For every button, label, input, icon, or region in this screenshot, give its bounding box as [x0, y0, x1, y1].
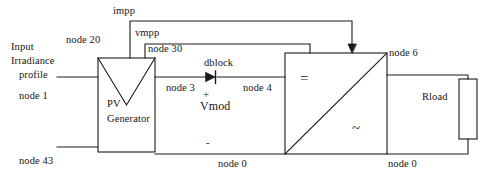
label-dblock: dblock [204, 57, 233, 69]
label-node-4: node 4 [243, 82, 272, 94]
label-inverter-dc-symbol: = [300, 72, 309, 84]
label-minus-sign: - [206, 136, 210, 148]
label-node-43: node 43 [19, 155, 53, 167]
wire-node6-to-load [387, 75, 468, 79]
label-pv-generator-line2: Generator [107, 113, 150, 125]
label-impp: impp [113, 5, 135, 17]
label-node-6: node 6 [389, 47, 418, 59]
label-input-line2: Irradiance [11, 55, 55, 67]
label-vmod: Vmod [200, 100, 230, 112]
diode-dblock-triangle [206, 73, 215, 82]
label-input-line3: profile [19, 69, 48, 81]
wire-node0-to-load [387, 139, 468, 154]
label-node-1: node 1 [19, 90, 48, 102]
label-node-20: node 20 [66, 34, 100, 46]
circuit-diagram: Input Irradiance profile node 1 node 43 … [0, 0, 489, 187]
load-resistor-box [459, 79, 477, 139]
label-node-30: node 30 [148, 43, 182, 55]
label-node-3: node 3 [166, 82, 195, 94]
label-rload: Rload [422, 91, 448, 103]
label-node-0-left: node 0 [218, 158, 247, 170]
label-inverter-ac-symbol: ~ [352, 122, 360, 134]
label-vmpp: vmpp [135, 27, 159, 39]
impp-arrowhead [348, 44, 356, 53]
label-pv-generator-line1: PV [107, 98, 121, 110]
inverter-diagonal [285, 53, 387, 154]
label-node-0-right: node 0 [388, 158, 417, 170]
label-input-line1: Input [11, 41, 34, 53]
